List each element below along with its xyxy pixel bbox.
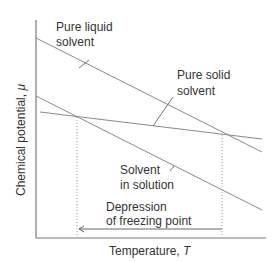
depression-label-2: of freezing point	[106, 214, 192, 228]
y-axis-label: Chemical potential, μ	[14, 84, 28, 196]
pure-liquid-label-2: solvent	[56, 35, 95, 49]
freezing-point-diagram: Pure liquid solvent Pure solid solvent S…	[0, 0, 275, 262]
solution-label-2: in solution	[120, 178, 174, 192]
pure-solid-line	[40, 112, 262, 139]
pure-liquid-label-1: Pure liquid	[56, 20, 113, 34]
x-axis-label: Temperature, T	[109, 244, 192, 258]
pure-solid-label-1: Pure solid	[177, 68, 230, 82]
solution-leader	[170, 166, 174, 171]
solution-label-1: Solvent	[120, 163, 161, 177]
solution-line	[36, 96, 262, 210]
depression-label-1: Depression	[106, 200, 167, 214]
pure-solid-leader	[153, 97, 173, 126]
pure-solid-label-2: solvent	[177, 84, 216, 98]
